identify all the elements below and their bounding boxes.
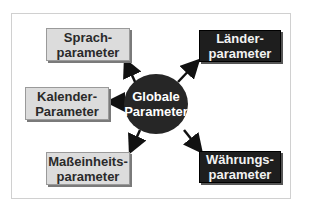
node-line2: parameter [200, 167, 280, 182]
node-line1: Sprach- [47, 30, 129, 45]
node-line2: parameter [47, 45, 129, 60]
node-line2: parameter [47, 169, 129, 184]
node-line1: Maßeinheits- [47, 154, 129, 169]
node-kalenderparameter: Kalender- Parameter [25, 87, 109, 120]
node-masseinheitsparameter: Maßeinheits- parameter [46, 152, 130, 185]
node-line1: Länder- [200, 31, 280, 46]
center-line1: Globale [132, 89, 180, 104]
node-laenderparameter: Länder- parameter [199, 30, 281, 62]
center-globale-parameter: Globale Parameter [124, 74, 188, 134]
node-line2: Parameter [26, 104, 108, 119]
arrow-to-laender [178, 62, 197, 82]
node-waehrungsparameter: Währungs- parameter [199, 151, 281, 183]
node-line1: Währungs- [200, 152, 280, 167]
arrow-to-waehrungs [184, 130, 200, 150]
center-line2: Parameter [124, 104, 188, 119]
node-line1: Kalender- [26, 89, 108, 104]
node-sprachparameter: Sprach- parameter [46, 28, 130, 61]
node-line2: parameter [200, 46, 280, 61]
arrow-to-masseinheits [131, 130, 140, 150]
